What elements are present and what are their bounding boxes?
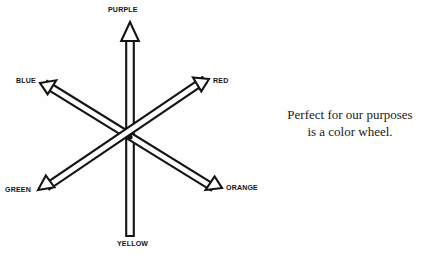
axis-label-yellow: YELLOW bbox=[117, 240, 148, 248]
axis-label-green: GREEN bbox=[5, 186, 31, 194]
axis-yellow-shaft bbox=[126, 137, 134, 236]
caption-text: Perfect for our purposes is a color whee… bbox=[275, 106, 425, 140]
caption-line-2: is a color wheel. bbox=[275, 123, 425, 140]
axis-label-blue: BLUE bbox=[16, 77, 36, 85]
axis-purple-shaft bbox=[121, 22, 139, 137]
caption-line-1: Perfect for our purposes bbox=[275, 106, 425, 123]
color-wheel-diagram bbox=[0, 0, 260, 260]
axis-label-purple: PURPLE bbox=[108, 6, 138, 14]
figure-page: PURPLE BLUE RED GREEN ORANGE YELLOW Perf… bbox=[0, 0, 436, 260]
axis-label-red: RED bbox=[213, 77, 228, 85]
axis-label-orange: ORANGE bbox=[226, 184, 258, 192]
wheel-center-hub bbox=[127, 134, 132, 139]
